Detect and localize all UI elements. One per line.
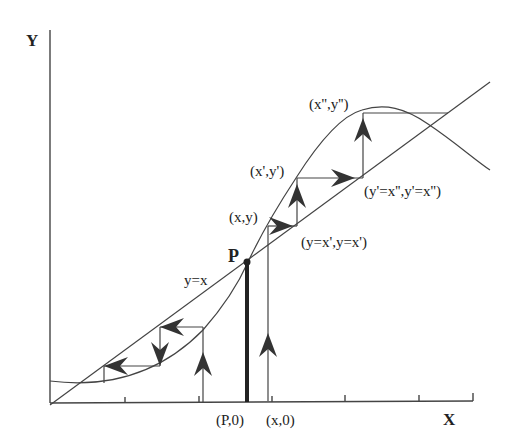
point-x2y2-label: (x'',y'') (309, 97, 349, 112)
cobweb-diagram: Y X P y=x (P,0) (x,0) (x,y) (x',y') (x''… (0, 0, 519, 443)
diagonal-point-1-label: (y=x',y=x') (301, 235, 367, 250)
start-foot-label: (x,0) (266, 413, 295, 428)
x-axis-label: X (443, 411, 455, 428)
right-staircase (268, 113, 448, 401)
diagram-svg (0, 0, 519, 443)
axes (50, 30, 473, 403)
fixed-point-dot (244, 259, 251, 266)
diagonal-line (50, 82, 490, 405)
fixed-point-foot-label: (P,0) (216, 413, 244, 428)
diagonal-label: y=x (184, 273, 207, 288)
y-axis-label: Y (26, 32, 38, 49)
point-xy-label: (x,y) (229, 210, 258, 225)
point-x1y1-label: (x',y') (250, 164, 284, 179)
x-axis (50, 401, 473, 403)
diagonal-point-2-label: (y'=x'',y'=x'') (364, 184, 441, 199)
fixed-point-label: P (228, 247, 239, 265)
